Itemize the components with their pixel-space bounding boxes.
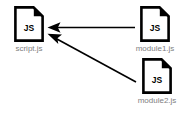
js-icon-text: JS [24,23,35,33]
edge-module2-to-script [48,34,137,82]
file-label-module2: module2.js [138,96,177,106]
file-node-script[interactable]: JS script.js [1,6,57,54]
file-node-module2[interactable]: JS module2.js [129,58,185,106]
file-label-script: script.js [15,44,42,54]
js-icon-text: JS [152,75,163,85]
js-file-icon: JS [140,6,170,42]
js-dependency-diagram: JS script.js JS module1.js JS module2.js [0,0,188,116]
js-file-icon: JS [14,6,44,42]
file-node-module1[interactable]: JS module1.js [127,6,183,54]
file-label-module1: module1.js [136,44,175,54]
js-icon-text: JS [150,23,161,33]
edge-module2-line [56,39,136,83]
edge-module1-to-script [48,22,136,32]
js-file-icon: JS [142,58,172,94]
